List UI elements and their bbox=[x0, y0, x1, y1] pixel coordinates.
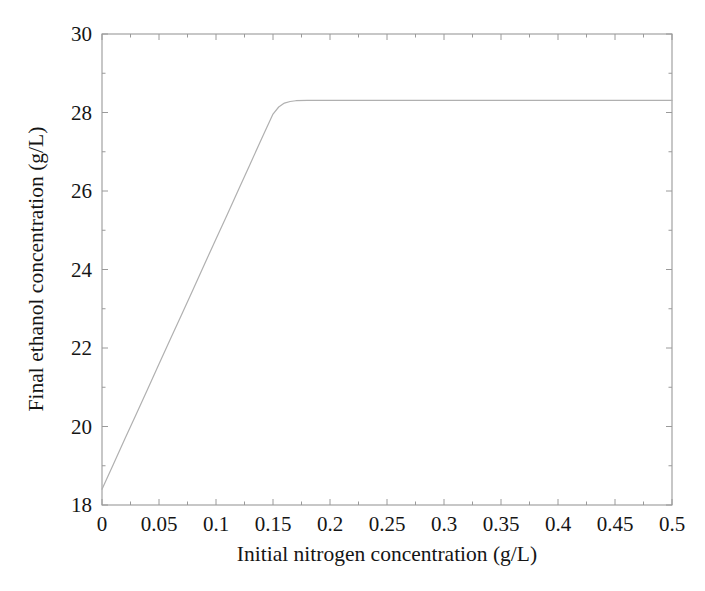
x-tick-label: 0.15 bbox=[255, 512, 292, 536]
y-tick-label: 30 bbox=[71, 22, 92, 46]
chart-background bbox=[0, 0, 705, 591]
x-tick-label: 0.05 bbox=[141, 512, 178, 536]
y-tick-label: 18 bbox=[71, 493, 92, 517]
y-axis-title: Final ethanol concentration (g/L) bbox=[24, 127, 48, 412]
x-tick-label: 0.2 bbox=[317, 512, 343, 536]
y-tick-label: 20 bbox=[71, 415, 92, 439]
y-tick-label: 22 bbox=[71, 336, 92, 360]
x-tick-label: 0.45 bbox=[597, 512, 634, 536]
chart-figure: 00.050.10.150.20.250.30.350.40.450.5 182… bbox=[0, 0, 705, 591]
x-axis-title: Initial nitrogen concentration (g/L) bbox=[237, 542, 537, 566]
chart-svg: 00.050.10.150.20.250.30.350.40.450.5 182… bbox=[0, 0, 705, 591]
y-tick-label: 24 bbox=[71, 258, 93, 282]
y-tick-label: 26 bbox=[71, 179, 92, 203]
y-tick-label: 28 bbox=[71, 101, 92, 125]
x-tick-label: 0 bbox=[97, 512, 108, 536]
x-tick-label: 0.5 bbox=[659, 512, 685, 536]
x-tick-label: 0.1 bbox=[203, 512, 229, 536]
x-tick-label: 0.35 bbox=[483, 512, 520, 536]
x-tick-label: 0.4 bbox=[545, 512, 572, 536]
x-tick-label: 0.3 bbox=[431, 512, 457, 536]
x-tick-label: 0.25 bbox=[369, 512, 406, 536]
